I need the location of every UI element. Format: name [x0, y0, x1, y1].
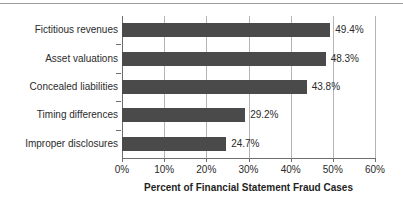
category-label: Fictitious revenues — [0, 24, 118, 35]
bar — [122, 23, 330, 37]
bar-value-label: 24.7% — [231, 138, 259, 149]
x-tick-label: 10% — [144, 164, 184, 175]
bar — [122, 80, 307, 94]
category-label: Timing differences — [0, 109, 118, 120]
gridline-60pct — [375, 16, 376, 158]
figure-top-divider — [0, 3, 403, 4]
bar-value-label: 29.2% — [250, 109, 278, 120]
x-tick-label: 30% — [229, 164, 269, 175]
bar-value-label: 48.3% — [331, 53, 359, 64]
x-axis-title: Percent of Financial Statement Fraud Cas… — [122, 182, 375, 193]
x-tick-mark — [164, 158, 165, 162]
category-axis-labels: Fictitious revenuesAsset valuationsConce… — [0, 16, 118, 158]
x-tick-label: 40% — [271, 164, 311, 175]
chart-figure: Fictitious revenuesAsset valuationsConce… — [0, 0, 403, 204]
category-label: Improper disclosures — [0, 138, 118, 149]
x-tick-mark — [249, 158, 250, 162]
category-tick-mark — [116, 73, 121, 74]
x-tick-label: 60% — [355, 164, 395, 175]
x-tick-mark — [375, 158, 376, 162]
bar — [122, 108, 245, 122]
category-label: Asset valuations — [0, 53, 118, 64]
x-tick-mark — [333, 158, 334, 162]
x-tick-label: 20% — [186, 164, 226, 175]
x-tick-label: 50% — [313, 164, 353, 175]
category-tick-mark — [116, 101, 121, 102]
bar — [122, 137, 226, 151]
category-label: Concealed liabilities — [0, 81, 118, 92]
bar-value-label: 43.8% — [312, 81, 340, 92]
x-tick-label: 0% — [102, 164, 142, 175]
x-tick-mark — [206, 158, 207, 162]
bar-value-label: 49.4% — [335, 24, 363, 35]
x-tick-mark — [291, 158, 292, 162]
bar — [122, 52, 326, 66]
category-tick-mark — [116, 44, 121, 45]
category-tick-mark — [116, 130, 121, 131]
x-tick-mark — [122, 158, 123, 162]
